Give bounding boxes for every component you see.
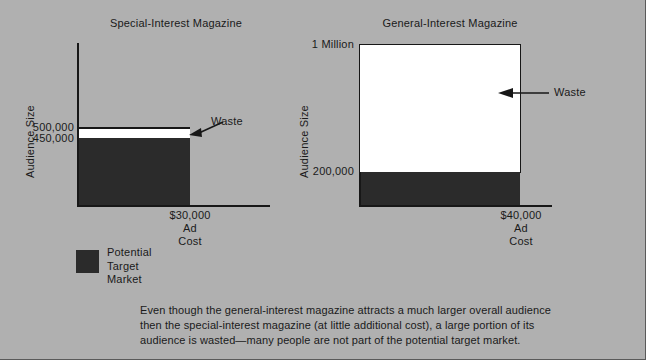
right-chart-x-axis-line — [359, 205, 552, 207]
left-chart-ytick-450000: 450,000 — [0, 132, 74, 144]
right-chart-xlabel-cost-word: Cost — [471, 235, 571, 247]
left-chart-title: Special-Interest Magazine — [76, 17, 276, 29]
right-chart-ytick-1million: 1 Million — [252, 38, 354, 50]
right-chart-title: General-Interest Magazine — [350, 17, 550, 29]
left-chart-xlabel-cost: $30,000 — [140, 209, 240, 221]
legend-label-line-3: Market — [107, 273, 152, 287]
left-chart-waste-label: Waste — [211, 115, 243, 127]
left-chart-xlabel-cost-word: Cost — [140, 235, 240, 247]
right-chart-xlabel-cost: $40,000 — [471, 209, 571, 221]
left-chart-waste-segment — [79, 129, 190, 138]
caption-line-2: then the special-interest magazine (at l… — [140, 318, 570, 333]
right-chart-waste-segment — [359, 44, 521, 173]
caption-line-1: Even though the general-interest magazin… — [140, 303, 570, 318]
caption-line-3: audience is wasted—many people are not p… — [140, 333, 570, 348]
left-chart-500k-rule — [77, 127, 190, 129]
left-chart-x-axis-line — [77, 205, 270, 207]
figure-canvas: Special-Interest Magazine Audience Size … — [0, 0, 646, 360]
right-chart-xlabel-ad: Ad — [471, 222, 571, 234]
right-chart-ytick-200000: 200,000 — [252, 165, 354, 177]
left-chart-xlabel-ad: Ad — [140, 222, 240, 234]
legend-swatch-potential-target-market — [76, 250, 99, 273]
legend-label-potential-target-market: Potential Target Market — [107, 246, 152, 287]
right-chart-target-market-segment — [361, 172, 520, 205]
legend-label-line-2: Target — [107, 260, 152, 274]
right-chart-waste-arrow-icon — [495, 85, 551, 101]
legend-label-line-1: Potential — [107, 246, 152, 260]
figure-caption: Even though the general-interest magazin… — [140, 303, 570, 348]
left-chart-target-market-segment — [79, 138, 190, 205]
right-chart-waste-label: Waste — [554, 86, 586, 98]
